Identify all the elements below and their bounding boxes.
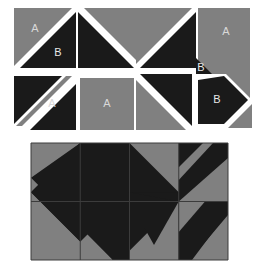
tile-puzzle-figure: A B A B xyxy=(0,0,259,268)
piece-6[interactable]: A xyxy=(80,78,134,130)
composite-figure[interactable] xyxy=(31,143,228,260)
piece-4[interactable]: A B xyxy=(196,8,250,74)
piece-8[interactable]: B xyxy=(198,74,252,128)
puzzle-svg: A B A B xyxy=(0,0,259,268)
piece-6-gray-square xyxy=(80,78,134,130)
piece-4-gray-body xyxy=(198,8,250,74)
